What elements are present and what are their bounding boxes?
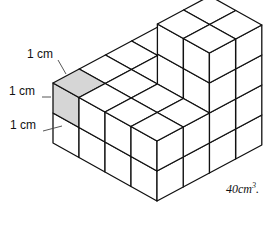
volume-value: 40cm bbox=[226, 182, 252, 196]
volume-caption: 40cm3. bbox=[226, 181, 259, 197]
height-label-top: 1 cm bbox=[9, 84, 35, 98]
height-label-bottom: 1 cm bbox=[10, 118, 36, 132]
volume-suffix: . bbox=[256, 182, 259, 196]
depth-label: 1 cm bbox=[27, 47, 53, 61]
depth-leader-line bbox=[58, 60, 66, 74]
